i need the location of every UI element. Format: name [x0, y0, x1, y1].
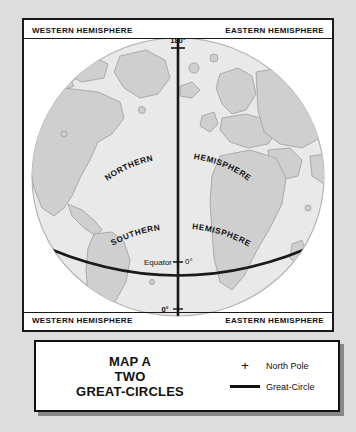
- legend-label-north-pole: North Pole: [266, 361, 309, 371]
- corner-label-southeast: EASTERN HEMISPHERE: [225, 316, 324, 325]
- corner-label-northwest: WESTERN HEMISPHERE: [32, 26, 133, 35]
- land-island-c: [139, 107, 146, 114]
- land-island-a: [189, 63, 199, 73]
- landmasses: [26, 38, 332, 317]
- equator-degree-label: 0°: [185, 257, 193, 266]
- legend-box: MAP A TWO GREAT-CIRCLES + North Pole Gre…: [34, 340, 340, 412]
- great-circle-line-icon: [224, 385, 266, 388]
- legend-row-north-pole: + North Pole: [224, 361, 338, 371]
- legend-row-great-circle: Great-Circle: [224, 382, 338, 392]
- globe-svg: 180° 0° Equator 0° NORTHERN HEMISPHERE: [24, 38, 332, 317]
- land-island-d: [305, 205, 311, 211]
- globe-illustration: 180° 0° Equator 0° NORTHERN HEMISPHERE: [24, 38, 332, 317]
- north-pole-plus-icon: +: [224, 361, 266, 370]
- legend-title-line1: MAP A: [40, 354, 220, 369]
- corner-label-northeast: EASTERN HEMISPHERE: [225, 26, 324, 35]
- page-background: WESTERN HEMISPHERE EASTERN HEMISPHERE WE…: [0, 0, 356, 432]
- land-island-e: [317, 227, 322, 232]
- meridian-top-label: 180°: [170, 38, 186, 45]
- legend-title-line3: GREAT-CIRCLES: [40, 384, 220, 399]
- legend-label-great-circle: Great-Circle: [266, 382, 315, 392]
- land-island-h: [61, 131, 67, 137]
- top-divider-rule: [24, 38, 332, 39]
- land-island-f: [267, 291, 273, 297]
- legend-title-line2: TWO: [40, 369, 220, 384]
- legend-key-list: + North Pole Great-Circle: [220, 361, 338, 392]
- equator-label: Equator: [144, 258, 172, 267]
- land-island-g: [149, 279, 154, 284]
- bottom-divider-rule: [24, 312, 332, 313]
- corner-label-southwest: WESTERN HEMISPHERE: [32, 316, 133, 325]
- map-frame: WESTERN HEMISPHERE EASTERN HEMISPHERE WE…: [22, 18, 334, 332]
- legend-title: MAP A TWO GREAT-CIRCLES: [36, 354, 220, 399]
- land-island-b: [210, 54, 218, 62]
